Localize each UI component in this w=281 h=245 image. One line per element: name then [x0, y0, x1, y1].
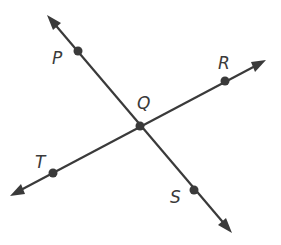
intersecting-lines-diagram: P Q R T S: [0, 0, 281, 245]
label-t: T: [35, 152, 47, 172]
point-t: [49, 169, 58, 178]
point-s: [190, 186, 199, 195]
point-q: [136, 122, 145, 131]
arrowhead-r-end-icon: [251, 60, 266, 72]
arrowhead-t-end-icon: [10, 184, 25, 196]
point-p: [74, 47, 83, 56]
label-r: R: [218, 53, 230, 73]
label-s: S: [170, 187, 181, 207]
point-r: [221, 77, 230, 86]
label-p: P: [52, 48, 63, 68]
label-q: Q: [137, 93, 150, 113]
